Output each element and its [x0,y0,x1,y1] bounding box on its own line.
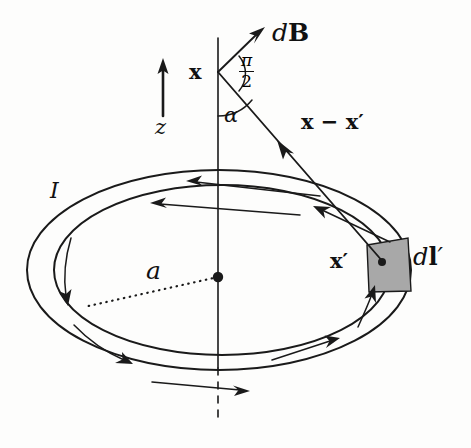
label-field-point: x [189,61,202,82]
current-arrow-top-inner-head [150,198,167,209]
label-current-element-l: l [428,242,437,271]
label-alpha-angle: α [224,105,238,126]
current-arrow-top-inner-shaft [160,204,300,215]
current-arrow-left-shaft [65,238,71,296]
label-current-element: dl′ [413,245,443,269]
current-arrow-top-outer-shaft [196,182,320,196]
label-z-axis: z [155,117,166,138]
label-current-element-d: d [413,243,428,271]
label-dB-d: d [272,18,288,47]
dB-vector-head [249,27,265,44]
current-arrow-bottom-head [233,386,250,397]
label-dB: dB [272,20,309,45]
diagram-canvas [0,0,471,448]
label-source-point: x′ [330,250,348,271]
current-arrow-top-outer-head [186,176,203,187]
label-current-element-prime: ′ [438,243,443,271]
loop-outer-edge [27,170,411,370]
label-right-angle-numerator: π [239,52,254,70]
label-current: I [50,180,59,202]
current-arrow-bottom-shaft [152,382,240,390]
label-right-angle-denominator: 2 [239,73,254,91]
label-dB-B: B [288,18,309,47]
label-radius: a [146,258,161,283]
loop-center-dot [213,272,223,282]
label-right-angle: π 2 [239,52,254,91]
physics-diagram-figure: dB x π 2 α x − x′ z I a x′ dl′ [0,0,471,448]
separation-vector-line [218,72,384,263]
current-element-patch [367,238,411,292]
label-separation-vector: x − x′ [301,111,364,132]
